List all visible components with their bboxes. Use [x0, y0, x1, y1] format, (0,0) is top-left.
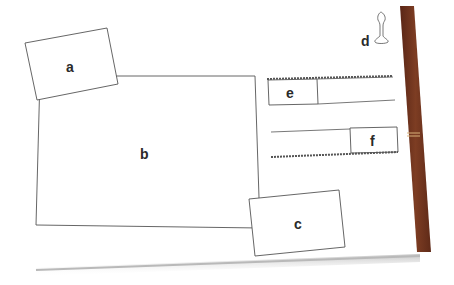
diagram-canvas: a b c d e f: [0, 0, 454, 285]
label-d: d: [361, 33, 370, 49]
label-a: a: [66, 59, 74, 75]
label-e: e: [286, 85, 294, 101]
page-shadow: [36, 254, 420, 276]
shelf-f: [271, 127, 398, 157]
label-c: c: [294, 216, 302, 232]
label-f: f: [370, 133, 375, 149]
figure-d-icon: [375, 12, 388, 44]
label-b: b: [140, 146, 149, 162]
book-spine: [400, 6, 431, 252]
